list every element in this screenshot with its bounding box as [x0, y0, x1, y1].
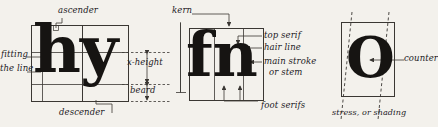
- specimen-hy: hy: [33, 16, 117, 82]
- label-beard: beard: [130, 86, 156, 96]
- label-x-height: x-height: [127, 58, 163, 68]
- label-top-serif: top serif: [264, 31, 301, 41]
- label-fitting-the-line-2: the line: [0, 64, 33, 74]
- label-fitting-the-line-1: fitting: [1, 50, 28, 60]
- label-foot-serifs: foot serifs: [261, 101, 305, 111]
- label-main-stroke: main stroke: [264, 57, 316, 67]
- specimen-fn: fn: [186, 24, 258, 86]
- label-counter: counter: [404, 54, 438, 64]
- label-or-stem: or stem: [269, 68, 302, 78]
- label-descender: descender: [59, 108, 105, 118]
- label-hair-line: hair line: [264, 43, 301, 53]
- label-kern: kern: [172, 6, 192, 16]
- specimen-o: O: [346, 29, 395, 85]
- label-stress-or-shading: stress, or shading: [332, 108, 406, 118]
- label-ascender: ascender: [58, 6, 98, 16]
